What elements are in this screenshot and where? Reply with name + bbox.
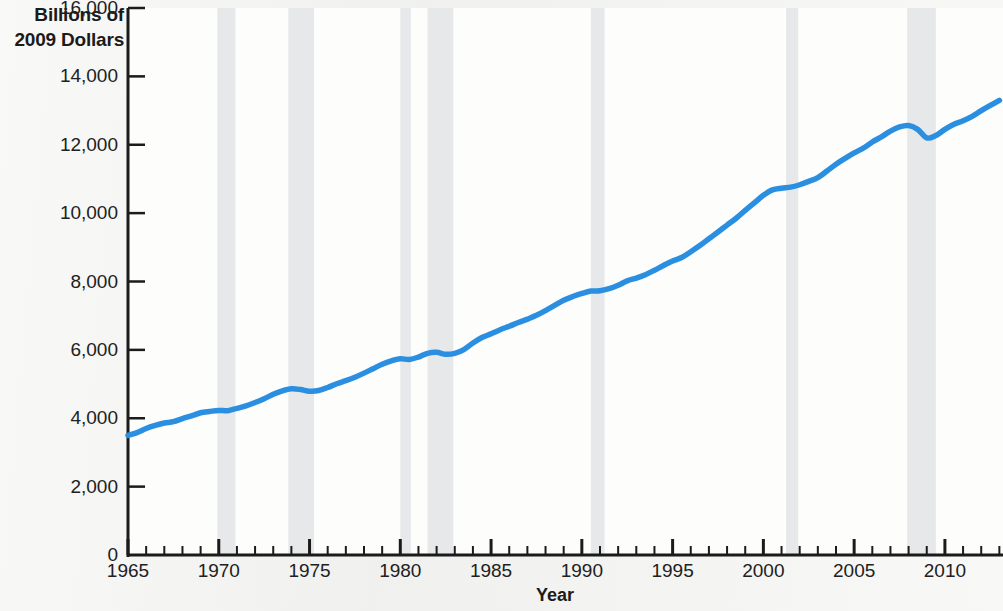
x-axis-tick-label: 1980 bbox=[355, 560, 445, 582]
y-axis-tick-label: 14,000 bbox=[8, 65, 118, 87]
x-axis-tick-label: 1970 bbox=[174, 560, 264, 582]
x-axis-tick-label: 2000 bbox=[718, 560, 808, 582]
x-axis-tick-label: 1995 bbox=[628, 560, 718, 582]
chart-plot-area bbox=[0, 0, 1003, 611]
y-axis-tick-label: 8,000 bbox=[8, 271, 118, 293]
x-axis-tick-label: 2010 bbox=[900, 560, 990, 582]
y-axis-tick-label: 4,000 bbox=[8, 407, 118, 429]
x-axis-tick-label: 1965 bbox=[83, 560, 173, 582]
plot-background bbox=[128, 8, 1003, 555]
recession-band bbox=[400, 8, 411, 555]
y-axis-tick-label: 16,000 bbox=[8, 0, 118, 19]
recession-band bbox=[907, 8, 936, 555]
y-axis-tick-label: 10,000 bbox=[8, 202, 118, 224]
y-axis-tick-label: 2,000 bbox=[8, 476, 118, 498]
recession-band bbox=[786, 8, 798, 555]
x-axis-tick-label: 1975 bbox=[265, 560, 355, 582]
x-axis-tick-label: 1990 bbox=[537, 560, 627, 582]
y-axis-tick-label: 6,000 bbox=[8, 339, 118, 361]
real-gdp-chart: Billions of 2009 Dollars Year Real GDP 0… bbox=[0, 0, 1003, 611]
recession-band bbox=[591, 8, 605, 555]
x-axis-tick-label: 2005 bbox=[809, 560, 899, 582]
x-axis-tick-label: 1985 bbox=[446, 560, 536, 582]
y-axis-tick-label: 12,000 bbox=[8, 134, 118, 156]
recession-band bbox=[288, 8, 314, 555]
recession-band bbox=[217, 8, 235, 555]
recession-band bbox=[428, 8, 454, 555]
